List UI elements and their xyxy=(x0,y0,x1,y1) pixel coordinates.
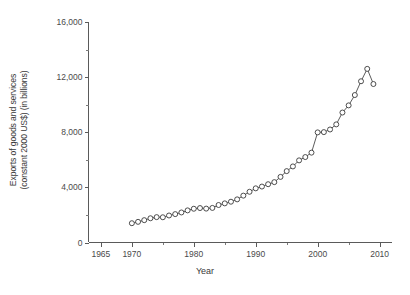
data-point xyxy=(321,130,326,135)
data-point xyxy=(359,79,364,84)
data-point xyxy=(210,205,215,210)
data-point xyxy=(154,215,159,220)
data-point xyxy=(160,215,165,220)
data-point xyxy=(241,193,246,198)
data-point xyxy=(334,122,339,127)
data-point xyxy=(266,182,271,187)
x-tick-label: 1990 xyxy=(246,250,265,259)
x-axis-ticks xyxy=(102,243,381,247)
plot-area xyxy=(0,0,410,295)
data-point xyxy=(129,221,134,226)
x-tick-label: 1970 xyxy=(122,250,141,259)
y-tick-label: 0 xyxy=(20,238,83,247)
x-tick-label: 1965 xyxy=(91,250,110,259)
chart-figure: Exports of goods and services (constant … xyxy=(0,0,410,295)
data-point xyxy=(204,206,209,211)
data-point xyxy=(136,219,141,224)
data-point xyxy=(328,127,333,132)
data-point xyxy=(346,103,351,108)
data-point xyxy=(191,206,196,211)
data-point xyxy=(228,199,233,204)
y-axis-ticks xyxy=(85,23,89,244)
x-tick-label: 2000 xyxy=(308,250,327,259)
data-point xyxy=(185,208,190,213)
x-tick-label: 2010 xyxy=(370,250,389,259)
data-point xyxy=(278,174,283,179)
data-point xyxy=(290,164,295,169)
data-point xyxy=(315,130,320,135)
data-point xyxy=(272,180,277,185)
data-point xyxy=(148,216,153,221)
data-series-line xyxy=(132,69,374,223)
data-point xyxy=(253,186,258,191)
data-point xyxy=(173,212,178,217)
data-point xyxy=(365,66,370,71)
data-point xyxy=(222,201,227,206)
x-axis-label: Year xyxy=(0,266,410,276)
y-tick-label: 8,000 xyxy=(20,128,83,137)
data-point xyxy=(340,110,345,115)
axes xyxy=(89,22,393,243)
data-point-markers xyxy=(129,66,376,225)
y-tick-label: 16,000 xyxy=(20,18,83,27)
data-point xyxy=(309,150,314,155)
data-point xyxy=(235,197,240,202)
data-point xyxy=(179,210,184,215)
data-point xyxy=(371,82,376,87)
data-point xyxy=(197,206,202,211)
data-point xyxy=(142,218,147,223)
data-point xyxy=(297,158,302,163)
data-point xyxy=(216,203,221,208)
y-tick-label: 4,000 xyxy=(20,183,83,192)
data-point xyxy=(284,169,289,174)
data-point xyxy=(352,93,357,98)
data-point xyxy=(303,155,308,160)
y-tick-label: 12,000 xyxy=(20,73,83,82)
data-point xyxy=(259,184,264,189)
x-tick-label: 1980 xyxy=(184,250,203,259)
data-point xyxy=(167,213,172,218)
data-point xyxy=(247,189,252,194)
y-axis-label-line1: Exports of goods and services xyxy=(8,10,19,250)
